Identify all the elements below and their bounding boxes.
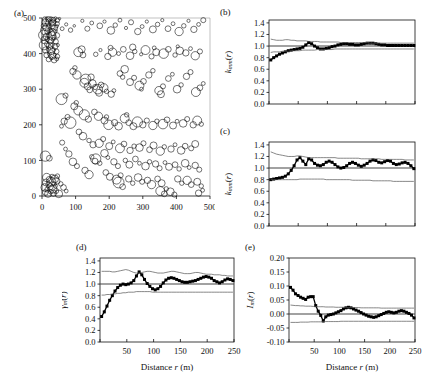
data-marker <box>322 47 325 50</box>
svg-text:1.4: 1.4 <box>85 256 96 266</box>
data-marker <box>386 44 389 47</box>
data-marker <box>366 162 369 165</box>
data-marker <box>194 279 197 282</box>
tree-circle <box>130 181 134 185</box>
tree-circle <box>85 26 90 31</box>
svg-text:500: 500 <box>23 13 36 23</box>
data-marker <box>333 45 336 48</box>
data-marker <box>304 43 307 46</box>
svg-text:0.4: 0.4 <box>254 76 265 86</box>
data-marker <box>292 289 295 292</box>
data-marker <box>319 164 322 167</box>
tree-circle <box>201 188 205 192</box>
tree-circle <box>172 162 178 168</box>
panel-b-label: (b) <box>220 7 231 17</box>
data-marker <box>116 286 119 289</box>
tree-circle <box>179 120 187 128</box>
data-marker <box>389 160 392 163</box>
tree-circle <box>173 143 177 147</box>
svg-text:0.10: 0.10 <box>270 281 285 291</box>
data-marker <box>197 278 200 281</box>
svg-text:γm(r): γm(r) <box>62 291 68 309</box>
tree-circle <box>115 164 120 169</box>
tree-circle <box>140 25 144 29</box>
data-marker <box>183 281 186 284</box>
tree-circle <box>193 116 202 125</box>
tree-circle <box>73 66 77 70</box>
data-marker <box>301 46 304 49</box>
tree-circle <box>99 48 102 51</box>
svg-e-xlabel: Distance r (m) <box>326 362 379 372</box>
data-marker <box>170 276 173 279</box>
data-marker <box>105 305 108 308</box>
tree-circle <box>156 147 164 155</box>
svg-text:250: 250 <box>409 346 422 356</box>
tree-circle <box>105 53 111 59</box>
data-marker <box>331 45 334 48</box>
svg-text:200: 200 <box>23 120 36 130</box>
tree-circle <box>128 20 133 25</box>
tree-circle <box>191 52 199 60</box>
svg-b-upper-envelope <box>271 39 414 43</box>
tree-circle <box>120 46 126 52</box>
svg-text:50: 50 <box>123 346 132 356</box>
svg-text:0.2: 0.2 <box>85 325 96 335</box>
tree-circle <box>92 158 98 164</box>
data-marker <box>151 287 154 290</box>
tree-circle <box>51 57 57 63</box>
svg-e-observed <box>291 287 414 321</box>
tree-circle <box>161 19 164 22</box>
tree-circle <box>124 113 128 117</box>
data-marker <box>226 277 229 280</box>
data-marker <box>383 160 386 163</box>
tree-circle <box>133 156 139 162</box>
data-marker <box>298 156 301 159</box>
tree-circle <box>183 176 191 184</box>
svg-text:300: 300 <box>23 84 36 94</box>
svg-text:kmm(r): kmm(r) <box>223 173 233 195</box>
data-marker <box>114 290 117 293</box>
tree-circle <box>149 121 157 129</box>
svg-b-markers <box>269 41 415 61</box>
svg-text:1.2: 1.2 <box>254 29 265 39</box>
tree-circle <box>85 170 93 178</box>
svg-text:0.00: 0.00 <box>270 309 285 319</box>
svg-text:200: 200 <box>201 346 214 356</box>
svg-text:100: 100 <box>69 202 82 212</box>
tree-circle <box>177 147 185 155</box>
svg-text:0.05: 0.05 <box>270 295 285 305</box>
data-marker <box>167 277 170 280</box>
tree-circle <box>187 166 191 170</box>
tree-circle <box>175 27 183 35</box>
tree-circle <box>182 143 188 149</box>
tree-circle <box>187 19 190 22</box>
data-marker <box>103 310 106 313</box>
svg-text:400: 400 <box>23 49 36 59</box>
tree-circle <box>106 143 113 150</box>
tree-circle <box>65 23 68 26</box>
data-marker <box>363 164 366 167</box>
svg-text:kmm(r): kmm(r) <box>223 51 233 73</box>
tree-circle <box>61 118 67 124</box>
tree-circle <box>93 84 103 94</box>
data-marker <box>215 280 218 283</box>
data-marker <box>317 310 320 313</box>
tree-circle <box>145 20 148 23</box>
tree-circle <box>136 144 144 152</box>
tree-circle <box>124 26 127 29</box>
tree-circle <box>94 52 98 56</box>
tree-circle <box>107 27 115 35</box>
svg-text:0.15: 0.15 <box>270 267 285 277</box>
tree-circle <box>144 118 149 123</box>
tree-circle <box>151 68 155 72</box>
data-marker <box>406 44 409 47</box>
svg-c-ylabel: kmm(r) <box>223 173 233 195</box>
data-marker <box>221 280 224 283</box>
svg-text:150: 150 <box>358 346 371 356</box>
data-marker <box>342 166 345 169</box>
tree-circle <box>60 124 64 128</box>
data-marker <box>351 161 354 164</box>
svg-c-markers <box>269 156 415 181</box>
data-marker <box>312 295 315 298</box>
tree-circle <box>179 83 183 87</box>
